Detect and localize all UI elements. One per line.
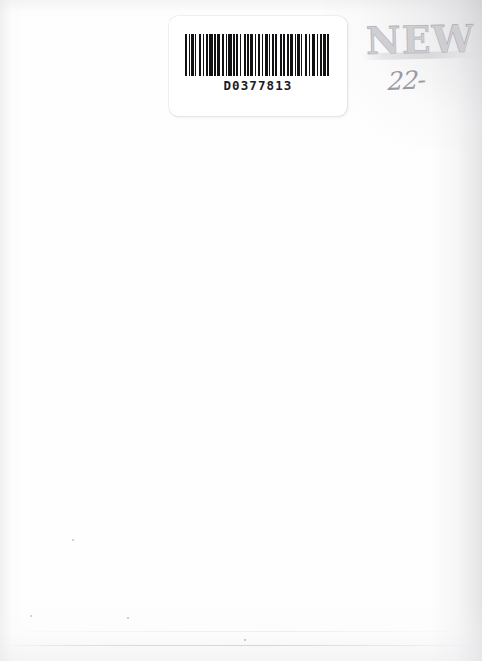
new-stamp: NEW bbox=[366, 17, 475, 63]
barcode-number: D0377813 bbox=[169, 78, 347, 93]
barcode-space bbox=[329, 34, 331, 76]
barcode-bars bbox=[185, 34, 331, 76]
handwritten-price-mark: 22- bbox=[387, 65, 426, 96]
barcode-label: D0377813 bbox=[169, 16, 347, 116]
scanned-page: D0377813 NEW 22- bbox=[0, 0, 482, 661]
